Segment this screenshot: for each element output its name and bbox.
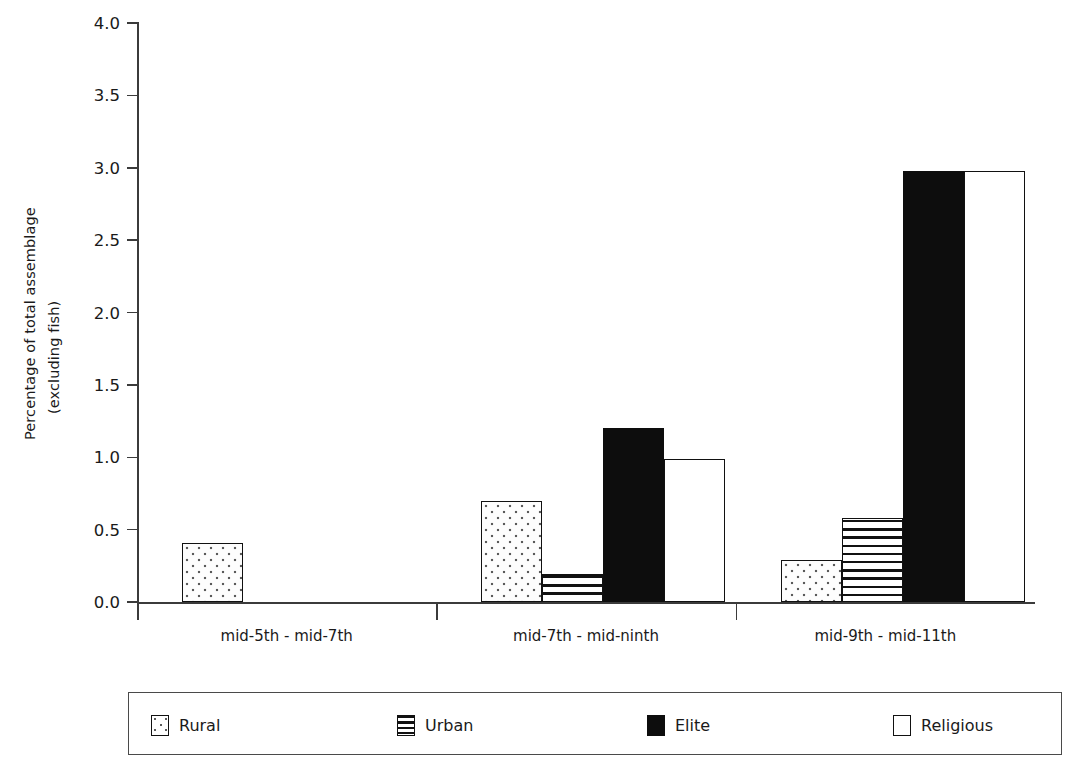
y-axis-tick: [127, 95, 137, 97]
y-axis-tick-label: 2.0: [0, 303, 120, 322]
x-axis-divider: [436, 603, 438, 620]
y-axis-tick: [127, 167, 137, 169]
y-axis-line: [137, 22, 139, 603]
legend-swatch-rural-icon: [151, 715, 169, 736]
legend-swatch-religious-icon: [893, 715, 911, 736]
legend-swatch-urban-icon: [397, 715, 415, 736]
legend: RuralUrbanEliteReligious: [128, 692, 1062, 755]
y-axis-tick-label: 1.5: [0, 375, 120, 394]
y-axis-tick-label: 0.0: [0, 593, 120, 612]
bar-religious-group-2: [664, 459, 725, 602]
bar-rural-group-1: [182, 543, 243, 602]
bar-rural-group-3: [781, 560, 842, 602]
x-axis-line: [137, 602, 1035, 604]
x-axis-divider: [736, 603, 738, 620]
legend-item-elite[interactable]: Elite: [647, 712, 710, 738]
legend-label: Rural: [179, 716, 220, 735]
bar-rural-group-2: [481, 501, 542, 602]
legend-item-urban[interactable]: Urban: [397, 712, 473, 738]
y-axis-tick: [127, 312, 137, 314]
x-axis-divider: [137, 603, 139, 620]
y-axis-tick-label: 1.0: [0, 448, 120, 467]
y-axis-tick: [127, 22, 137, 24]
legend-label: Urban: [425, 716, 473, 735]
bar-chart-figure: Percentage of total assemblage (excludin…: [0, 0, 1072, 774]
legend-swatch-elite-icon: [647, 715, 665, 736]
y-axis-tick-label: 4.0: [0, 14, 120, 33]
x-axis-category-label: mid-5th - mid-7th: [221, 627, 353, 645]
x-axis-category-label: mid-9th - mid-11th: [814, 627, 956, 645]
bar-urban-group-3: [842, 518, 903, 602]
bar-religious-group-3: [964, 171, 1025, 602]
y-axis-tick-label: 3.0: [0, 158, 120, 177]
y-axis-tick: [127, 457, 137, 459]
legend-label: Elite: [675, 716, 710, 735]
bar-elite-group-2: [603, 428, 664, 602]
legend-item-religious[interactable]: Religious: [893, 712, 993, 738]
y-axis-tick: [127, 529, 137, 531]
y-axis-tick: [127, 384, 137, 386]
bar-urban-group-2: [542, 574, 603, 602]
y-axis-tick: [127, 601, 137, 603]
bar-elite-group-3: [903, 171, 964, 602]
y-axis-tick-label: 3.5: [0, 86, 120, 105]
y-axis-tick-label: 2.5: [0, 231, 120, 250]
y-axis-tick-label: 0.5: [0, 520, 120, 539]
y-axis-tick: [127, 239, 137, 241]
legend-item-rural[interactable]: Rural: [151, 712, 220, 738]
legend-label: Religious: [921, 716, 993, 735]
x-axis-category-label: mid-7th - mid-ninth: [513, 627, 659, 645]
